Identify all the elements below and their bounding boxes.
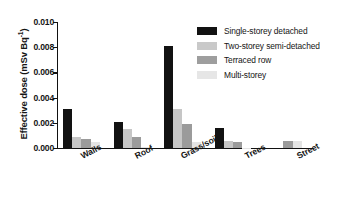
legend-label: Single-storey detached: [224, 26, 307, 36]
legend-swatch: [197, 71, 217, 79]
bar-group-grass-soil: [164, 22, 201, 148]
y-tick-label: 0.008: [33, 42, 54, 52]
chart-figure: Effective dose (mSv Bq-1) 0.0000.0020.00…: [0, 0, 354, 200]
bar: [123, 129, 132, 148]
bar-group-roof: [114, 22, 151, 148]
bar: [63, 109, 72, 148]
legend-swatch: [197, 56, 217, 64]
bar: [224, 141, 233, 148]
y-tick-label: 0.002: [33, 118, 54, 128]
bar: [233, 142, 242, 148]
legend-item-1: Two-storey semi-detached: [197, 39, 352, 54]
legend-item-3: Multi-storey: [197, 68, 352, 83]
y-tick-label: 0.000: [33, 143, 54, 153]
bar-group-walls: [63, 22, 100, 148]
legend-label: Multi-storey: [224, 70, 266, 80]
bar: [132, 137, 141, 148]
legend: Single-storey detachedTwo-storey semi-de…: [197, 24, 352, 82]
legend-label: Terraced row: [224, 55, 271, 65]
y-axis-title-exponent: -1: [17, 32, 24, 38]
y-axis-title-suffix: ): [18, 29, 29, 32]
bar: [72, 137, 81, 148]
bar: [164, 46, 173, 148]
legend-item-2: Terraced row: [197, 53, 352, 68]
y-tick-label: 0.006: [33, 67, 54, 77]
bar: [114, 122, 123, 148]
legend-swatch: [197, 42, 217, 50]
legend-swatch: [197, 27, 217, 35]
bar: [293, 141, 302, 148]
legend-label: Two-storey semi-detached: [224, 41, 320, 51]
legend-item-0: Single-storey detached: [197, 24, 352, 39]
y-tick-label: 0.004: [33, 93, 54, 103]
bar: [182, 124, 191, 148]
y-axis-title: Effective dose (mSv Bq-1): [17, 14, 29, 154]
y-axis-title-text: Effective dose (mSv Bq: [18, 37, 29, 139]
bar: [173, 109, 182, 148]
bar: [283, 141, 292, 148]
y-tick-label: 0.010: [33, 17, 54, 27]
